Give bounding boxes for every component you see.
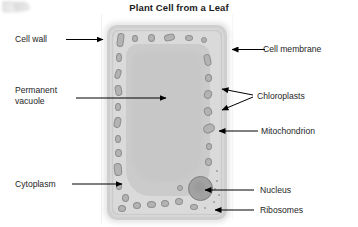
- chloroplast-shape: [205, 158, 212, 166]
- chloroplast-shape: [113, 163, 122, 177]
- chloroplast-shape: [206, 143, 212, 150]
- ribosome-dot: [209, 194, 211, 196]
- ribosome-dot: [216, 170, 218, 172]
- label-mitochondrion: Mitochondrion: [261, 126, 315, 137]
- chloroplast-shape: [118, 205, 126, 212]
- chloroplast-shape: [116, 53, 122, 62]
- diagram-title: Plant Cell from a Leaf: [0, 2, 358, 13]
- ribosome-dot: [204, 207, 206, 209]
- chloroplast-shape: [148, 34, 155, 42]
- ribosome-dot: [217, 208, 219, 210]
- chloroplast-shape: [185, 35, 193, 41]
- chloroplast-shape: [115, 149, 122, 157]
- chloroplast-shape: [205, 74, 212, 82]
- label-cell-membrane: Cell membrane: [263, 44, 321, 55]
- chloroplast-shape: [147, 201, 156, 208]
- scan-artifact-vertical-line-2: [232, 14, 233, 219]
- chloroplast-shape: [122, 194, 129, 202]
- label-chloroplasts: Chloroplasts: [257, 91, 305, 102]
- label-nucleus: Nucleus: [260, 185, 291, 196]
- chloroplast-shape: [132, 35, 138, 42]
- plant-cell-illustration: [104, 22, 230, 223]
- chloroplast-shape: [177, 185, 183, 191]
- ribosome-dot: [213, 201, 215, 203]
- label-cell-wall: Cell wall: [15, 34, 47, 45]
- chloroplast-shape: [133, 202, 141, 209]
- label-ribosomes: Ribosomes: [260, 205, 303, 216]
- chloroplast-shape: [115, 103, 121, 111]
- diagram-canvas: Plant Cell from a Leaf: [0, 0, 358, 227]
- ribosome-dot: [216, 180, 218, 182]
- scan-artifact-vertical-line: [101, 14, 102, 224]
- chloroplast-shape: [116, 183, 122, 190]
- chloroplast-shape: [175, 198, 183, 205]
- ribosome-dot: [208, 182, 210, 184]
- permanent-vacuole-highlight: [132, 52, 202, 182]
- chloroplast-shape: [201, 37, 207, 43]
- chloroplast-shape: [115, 135, 121, 143]
- label-cytoplasm: Cytoplasm: [15, 179, 56, 190]
- ribosome-dot: [214, 188, 216, 190]
- chloroplast-shape: [161, 200, 169, 207]
- nucleolus-shape: [194, 182, 205, 192]
- label-permanent-vacuole: Permanent vacuole: [15, 85, 57, 107]
- chloroplast-shape: [190, 204, 198, 210]
- ribosome-dot: [218, 194, 220, 196]
